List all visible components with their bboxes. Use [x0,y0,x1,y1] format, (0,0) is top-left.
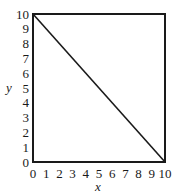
x-tick-label: 0 [30,166,37,181]
x-tick-label: 9 [149,166,156,181]
y-tick-label: 5 [23,81,30,96]
y-tick-label: 3 [23,110,30,125]
x-tick-label: 3 [69,166,76,181]
x-axis-label: x [94,179,101,194]
chart-canvas: 012345678910 012345678910 x y [0,0,174,195]
y-tick-label: 1 [23,140,30,155]
line-chart: 012345678910 012345678910 x y [0,0,174,195]
y-tick-label: 9 [23,21,30,36]
y-tick-label: 7 [23,51,30,66]
y-tick-label: 8 [23,36,30,51]
data-line [33,14,165,162]
x-tick-label: 10 [159,166,172,181]
y-tick-label: 4 [23,95,30,110]
x-tick-label: 6 [109,166,116,181]
y-tick-label: 10 [16,7,29,22]
y-tick-label: 6 [23,66,30,81]
x-tick-label: 4 [83,166,90,181]
x-tick-label: 8 [135,166,142,181]
y-tick-labels: 012345678910 [16,7,30,170]
y-tick-label: 0 [23,155,30,170]
x-tick-label: 1 [43,166,50,181]
y-axis-label: y [4,80,12,95]
x-tick-label: 2 [56,166,63,181]
y-tick-label: 2 [23,125,30,140]
x-tick-label: 7 [122,166,129,181]
